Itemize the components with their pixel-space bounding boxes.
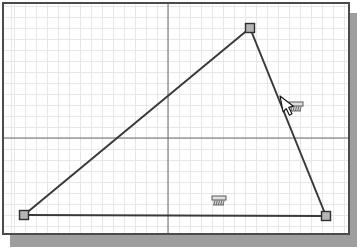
sketch-grid-canvas[interactable] [2,2,350,235]
